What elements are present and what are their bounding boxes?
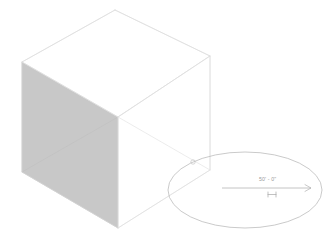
- isometric-scene: [0, 0, 323, 248]
- dimension-value-text[interactable]: 50' - 0": [259, 177, 276, 182]
- dimension-annotation-group[interactable]: [222, 185, 311, 197]
- drawing-viewport[interactable]: 50' - 0": [0, 0, 323, 248]
- dimension-h-tick-icon: [268, 192, 276, 197]
- callout-group[interactable]: [168, 152, 322, 228]
